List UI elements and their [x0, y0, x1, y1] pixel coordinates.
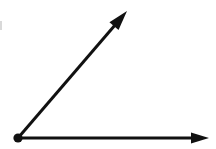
vertex-point-marker: [13, 133, 22, 142]
angle-diagram-svg: [0, 0, 216, 149]
diagram-background: [0, 0, 216, 149]
left-edge-speck: [0, 21, 2, 30]
angle-diagram-canvas: [0, 0, 216, 149]
